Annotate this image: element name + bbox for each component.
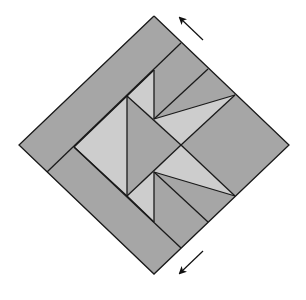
arrow-bottom-icon [180,251,203,273]
quilt-pieces [19,16,289,274]
arrow-top-icon [180,18,203,40]
quilt-block-diagram [0,0,306,300]
diagram-canvas [0,0,306,300]
